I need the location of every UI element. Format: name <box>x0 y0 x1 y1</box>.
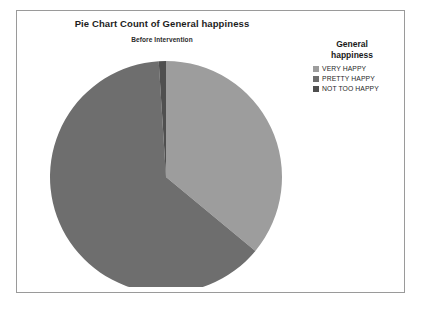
legend-item-label: VERY HAPPY <box>322 65 366 72</box>
legend-swatch-icon <box>313 76 319 82</box>
legend-item[interactable]: NOT TOO HAPPY <box>313 84 419 93</box>
legend-title: General happiness <box>315 39 389 60</box>
legend-item[interactable]: PRETTY HAPPY <box>313 74 419 83</box>
legend: General happiness VERY HAPPYPRETTY HAPPY… <box>313 39 419 94</box>
legend-swatch-icon <box>313 66 319 72</box>
legend-item[interactable]: VERY HAPPY <box>313 64 419 73</box>
pie-chart <box>35 51 287 287</box>
legend-item-label: PRETTY HAPPY <box>322 75 375 82</box>
legend-title-line-2: happiness <box>331 50 373 60</box>
pie-slice-group <box>50 61 282 287</box>
pie-chart-svg <box>35 51 287 287</box>
chart-title: Pie Chart Count of General happiness <box>17 18 307 29</box>
chart-subtitle: Before Intervention <box>17 36 307 43</box>
chart-frame: Pie Chart Count of General happiness Bef… <box>16 10 405 293</box>
legend-item-label: NOT TOO HAPPY <box>322 85 379 92</box>
legend-swatch-icon <box>313 86 319 92</box>
legend-title-line-1: General <box>336 39 368 49</box>
legend-item-list: VERY HAPPYPRETTY HAPPYNOT TOO HAPPY <box>313 64 419 93</box>
